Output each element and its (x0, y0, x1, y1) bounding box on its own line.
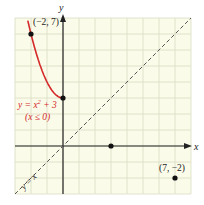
graph: x y (−2, 7) (7, −2) y = x2 + 3 (x ≤ 0) y… (0, 0, 204, 205)
point-marker (28, 31, 33, 36)
curve-label-domain: (x ≤ 0) (25, 112, 50, 123)
point-label-neg2-7: (−2, 7) (33, 17, 59, 28)
x-axis-label: x (193, 141, 199, 152)
point-marker (108, 143, 113, 148)
curve-label-equation: y = x2 + 3 (17, 98, 57, 110)
y-axis-label: y (58, 2, 64, 13)
point-marker (60, 95, 65, 100)
point-marker (172, 175, 177, 180)
point-label-7-neg2: (7, −2) (159, 163, 185, 174)
